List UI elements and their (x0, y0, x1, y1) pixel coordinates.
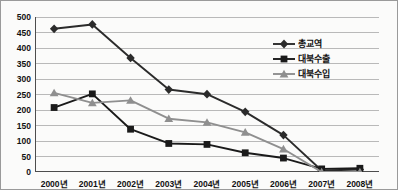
data-point-marker (242, 149, 249, 156)
data-point-marker (51, 104, 58, 111)
y-axis-tick-label: 150 (17, 121, 31, 131)
series-line (54, 93, 360, 172)
data-point-marker (241, 107, 249, 116)
legend-item-3[interactable]: 대북수입 (273, 67, 359, 80)
y-axis-tick-label: 100 (17, 136, 31, 146)
data-point-marker (89, 90, 96, 97)
data-point-marker (127, 126, 134, 133)
x-axis-tick-label: 2000년 (41, 177, 68, 189)
data-point-marker (50, 89, 59, 97)
legend-item-2[interactable]: 대북수출 (273, 52, 359, 65)
x-axis-tick-label: 2007년 (308, 177, 335, 189)
y-axis-tick-label: 200 (17, 105, 31, 115)
data-point-marker (203, 90, 211, 99)
chart-legend: 총교역대북수출대북수입 (273, 37, 359, 82)
y-axis-tick-label: 250 (17, 90, 31, 100)
x-axis-tick-label: 2008년 (346, 177, 373, 189)
y-axis-tick-label: 0 (26, 167, 31, 177)
y-axis-tick-label: 300 (17, 74, 31, 84)
legend-marker-square-icon (273, 54, 295, 64)
x-axis-tick-label: 2002년 (117, 177, 144, 189)
y-axis-tick-label: 500 (17, 12, 31, 22)
x-axis-tick-label: 2006년 (270, 177, 297, 189)
x-axis-tick-label: 2004년 (194, 177, 221, 189)
legend-item-1[interactable]: 총교역 (273, 37, 359, 50)
x-axis-tick-label: 2005년 (232, 177, 259, 189)
x-axis-tick-label: 2001년 (79, 177, 106, 189)
legend-marker-diamond-icon (273, 39, 295, 49)
y-axis-tick-label: 400 (17, 43, 31, 53)
y-axis-tick-label: 450 (17, 28, 31, 38)
y-axis-tick-label: 350 (17, 59, 31, 69)
legend-label: 대북수입 (298, 69, 330, 79)
data-point-marker (165, 140, 172, 147)
series-line (54, 94, 360, 169)
data-point-marker (280, 155, 287, 162)
chart-container: 050100150200250300350400450500 2000년2001… (0, 0, 398, 190)
data-point-marker (280, 39, 288, 48)
x-axis-tick-label: 2003년 (155, 177, 182, 189)
data-point-marker (50, 24, 58, 33)
series-3 (50, 89, 365, 172)
legend-label: 대북수출 (298, 54, 330, 64)
data-point-marker (281, 55, 288, 62)
data-point-marker (204, 141, 211, 148)
legend-label: 총교역 (298, 39, 322, 49)
legend-marker-triangle-icon (273, 69, 295, 79)
y-axis-tick-label: 50 (22, 152, 31, 162)
